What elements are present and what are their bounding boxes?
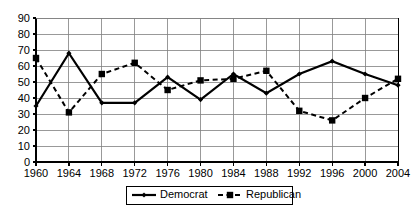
y-axis-tick-label: 70 — [18, 44, 30, 56]
y-axis-tick-label: 50 — [18, 76, 30, 88]
data-point-marker — [362, 95, 368, 101]
x-axis-tick-label: 1984 — [221, 167, 245, 179]
data-point-marker — [263, 68, 269, 74]
x-axis-tick-label: 2004 — [386, 167, 410, 179]
x-axis-tick-label: 1964 — [57, 167, 81, 179]
data-point-marker — [164, 87, 170, 93]
data-point-marker — [296, 108, 302, 114]
y-axis-tick-label: 80 — [18, 28, 30, 40]
x-axis-tick-label: 1996 — [320, 167, 344, 179]
x-axis-tick-label: 1976 — [155, 167, 179, 179]
data-point-marker — [132, 60, 138, 66]
chart-legend: DemocratRepublican — [126, 186, 301, 204]
x-axis-tick-label: 1988 — [254, 167, 278, 179]
y-axis-tick-label: 40 — [18, 92, 30, 104]
x-axis-tick-label: 2000 — [353, 167, 377, 179]
chart-container: 0102030405060708090 19601964196819721976… — [0, 0, 418, 214]
chart-background — [0, 0, 418, 214]
y-axis-tick-label: 60 — [18, 60, 30, 72]
x-axis-tick-label: 1980 — [188, 167, 212, 179]
x-axis-tick-label: 1968 — [90, 167, 114, 179]
y-axis-tick-label: 10 — [18, 140, 30, 152]
x-axis-tick-label: 1960 — [24, 167, 48, 179]
data-point-marker — [230, 76, 236, 82]
y-axis-tick-label: 90 — [18, 12, 30, 24]
data-point-marker — [99, 71, 105, 77]
legend-label-republican: Republican — [246, 188, 301, 200]
y-axis-tick-label: 30 — [18, 108, 30, 120]
data-point-marker — [197, 77, 203, 83]
x-axis-tick-label: 1972 — [122, 167, 146, 179]
y-axis-tick-label: 20 — [18, 124, 30, 136]
data-point-marker — [66, 109, 72, 115]
data-point-marker — [329, 117, 335, 123]
legend-label-democrat: Democrat — [160, 188, 208, 200]
x-axis-tick-label: 1992 — [287, 167, 311, 179]
line-chart: 0102030405060708090 19601964196819721976… — [0, 0, 418, 214]
data-point-marker — [33, 55, 39, 61]
data-point-marker — [395, 76, 401, 82]
